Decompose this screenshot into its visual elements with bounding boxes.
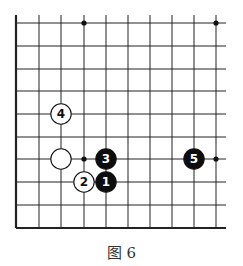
move-number: 4 (57, 107, 65, 121)
figure-caption: 图 6 (0, 241, 243, 262)
go-board: 12345 (0, 0, 243, 240)
star-point (213, 156, 218, 161)
black-stone-5: 5 (184, 149, 204, 169)
black-stone-1: 1 (96, 172, 116, 192)
white-stone (51, 149, 71, 169)
grid-lines (16, 15, 226, 228)
move-number: 5 (190, 152, 198, 166)
star-point (81, 20, 86, 25)
move-number: 1 (102, 175, 110, 189)
move-number: 3 (102, 152, 110, 166)
black-stone-3: 3 (96, 149, 116, 169)
white-stone-4: 4 (51, 104, 71, 124)
star-point (213, 20, 218, 25)
move-number: 2 (80, 175, 88, 189)
star-point (81, 156, 86, 161)
white-stone-2: 2 (74, 172, 94, 192)
